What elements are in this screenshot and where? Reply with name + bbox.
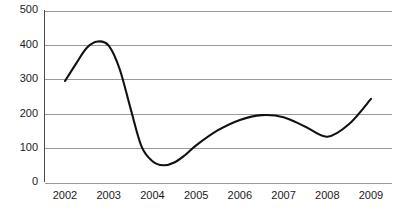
line-chart: 5004003002001000 20022003200420052006200… [0,0,403,214]
y-tick-label-100: 100 [20,141,38,153]
y-tick-label-500: 500 [20,3,38,15]
x-tick-label-2003: 2003 [96,189,120,201]
x-tick-label-2002: 2002 [53,189,77,201]
x-tick-label-2006: 2006 [228,189,252,201]
x-tick-label-2005: 2005 [184,189,208,201]
x-tick-label-2009: 2009 [359,189,383,201]
chart-canvas: 5004003002001000 20022003200420052006200… [0,0,403,214]
y-tick-label-300: 300 [20,72,38,84]
x-tick-label-2004: 2004 [140,189,164,201]
y-tick-label-200: 200 [20,107,38,119]
chart-background [0,0,403,214]
x-tick-label-2008: 2008 [315,189,339,201]
y-tick-label-400: 400 [20,38,38,50]
y-tick-label-0: 0 [32,175,38,187]
x-tick-label-2007: 2007 [271,189,295,201]
